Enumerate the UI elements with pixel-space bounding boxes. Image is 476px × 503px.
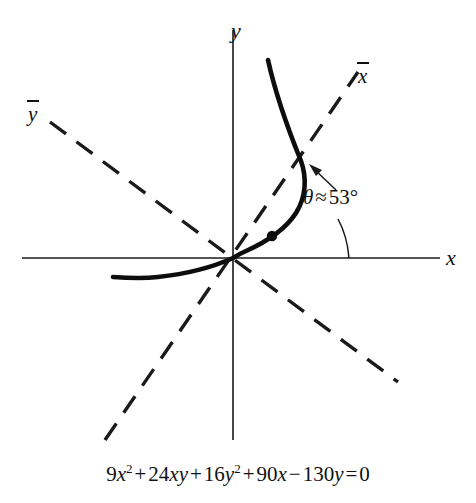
term-3-coefficient: 16 <box>204 462 225 486</box>
term-1-coefficient: 9 <box>106 462 117 486</box>
equation-term-3: 16y2 <box>204 462 241 486</box>
x-bar-axis-label: x <box>358 62 367 87</box>
y-bar-axis-line <box>50 122 398 382</box>
y-axis-label: y <box>231 20 241 42</box>
theta-symbol: θ <box>303 185 313 209</box>
conic-figure: x y x y θ≈53° 9x2+24xy+16y2+90x−130y=0 <box>0 0 476 503</box>
term-3-variable: y <box>225 462 234 486</box>
operator-2: + <box>188 462 204 486</box>
term-5-coefficient: 130 <box>303 462 335 486</box>
term-4-coefficient: 90 <box>257 462 278 486</box>
angle-arc <box>338 219 349 258</box>
operator-4: − <box>287 462 303 486</box>
term-3-exponent: 2 <box>234 461 241 476</box>
equation-caption: 9x2+24xy+16y2+90x−130y=0 <box>0 462 476 485</box>
equation-term-5: 130y <box>303 462 344 486</box>
term-2-variable: xy <box>169 462 188 486</box>
y-bar-glyph: y <box>28 100 37 125</box>
equals-symbol: = <box>344 462 360 486</box>
angle-value: 53° <box>329 185 358 209</box>
term-4-variable: x <box>278 462 287 486</box>
curve-point-marker <box>267 231 277 241</box>
term-2-coefficient: 24 <box>148 462 169 486</box>
angle-label: θ≈53° <box>303 187 358 208</box>
operator-1: + <box>132 462 148 486</box>
term-1-variable: x <box>117 462 126 486</box>
term-5-variable: y <box>334 462 343 486</box>
equation-term-4: 90x <box>257 462 287 486</box>
equation-term-2: 24xy <box>148 462 188 486</box>
equation-right-side: 0 <box>359 462 370 486</box>
x-bar-axis-line <box>105 72 358 440</box>
x-axis-label: x <box>446 247 456 269</box>
approx-symbol: ≈ <box>313 185 329 209</box>
x-bar-glyph: x <box>358 62 367 87</box>
y-bar-axis-label: y <box>28 100 37 125</box>
equation-term-1: 9x2 <box>106 462 132 486</box>
conic-curve <box>113 60 305 278</box>
operator-3: + <box>241 462 257 486</box>
figure-canvas <box>0 0 476 503</box>
